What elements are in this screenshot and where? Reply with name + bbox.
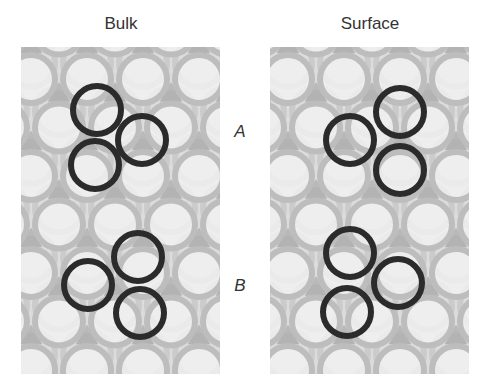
lattice-atom <box>270 55 312 103</box>
lattice-atom <box>404 103 452 151</box>
surface-panel-title: Surface <box>270 14 470 34</box>
lattice-atom <box>147 297 195 345</box>
bulk-lattice-panel <box>21 47 220 374</box>
lattice-atom <box>63 55 111 103</box>
lattice-atom <box>35 200 83 248</box>
lattice-atom <box>21 249 55 297</box>
lattice-atom <box>21 152 55 200</box>
lattice-atom <box>175 249 220 297</box>
surface-lattice-panel <box>270 47 469 374</box>
lattice-atom <box>320 346 368 374</box>
bulk-panel-title: Bulk <box>21 14 221 34</box>
lattice-atom <box>432 55 469 103</box>
lattice-atom <box>432 152 469 200</box>
lattice-atom <box>432 249 469 297</box>
lattice-atom <box>175 346 220 374</box>
lattice-atom <box>404 200 452 248</box>
lattice-atom <box>119 55 167 103</box>
lattice-atom <box>270 152 312 200</box>
lattice-atom <box>175 55 220 103</box>
lattice-atom <box>270 346 312 374</box>
lattice-atom <box>21 55 55 103</box>
lattice-atom <box>91 200 139 248</box>
lattice-atom <box>292 297 340 345</box>
lattice-atom <box>292 200 340 248</box>
lattice-atom <box>147 103 195 151</box>
lattice-atom <box>320 55 368 103</box>
site-label-b: B <box>225 276 255 296</box>
lattice-atom <box>270 249 312 297</box>
lattice-atom <box>119 346 167 374</box>
lattice-atom <box>63 346 111 374</box>
site-label-a: A <box>225 122 255 142</box>
lattice-atom <box>376 346 424 374</box>
lattice-atom <box>175 152 220 200</box>
